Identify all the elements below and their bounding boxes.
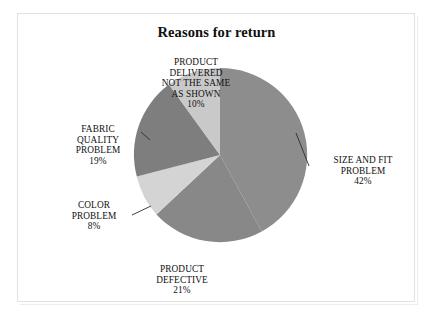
pie-label-color-problem: COLOR PROBLEM 8%	[52, 200, 136, 232]
pie-label-fabric-quality: FABRIC QUALITY PROBLEM 19%	[56, 124, 140, 166]
pie-label-product-delivered-not-same: PRODUCT DELIVERED NOT THE SAME AS SHOWN …	[137, 57, 255, 110]
pie-chart-figure: Reasons for return PRODUCT DELIVERED NOT…	[0, 0, 433, 325]
pie-label-product-defective: PRODUCT DEFECTIVE 21%	[134, 264, 230, 296]
pie-label-size-and-fit: SIZE AND FIT PROBLEM 42%	[311, 155, 415, 187]
